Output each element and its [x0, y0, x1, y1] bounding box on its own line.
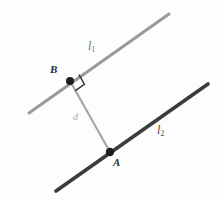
- line-l2: [56, 84, 208, 191]
- line-label-l2-subscript: 2: [160, 129, 164, 138]
- line-label-l1-subscript: 1: [91, 45, 95, 54]
- line-label-l2: l2: [157, 124, 164, 136]
- right-angle-group: [75, 75, 84, 91]
- right-angle-marker: [75, 75, 84, 91]
- line-label-l1: l1: [88, 40, 95, 52]
- segment-label-d: d: [73, 112, 78, 122]
- figure-svg: [0, 0, 224, 199]
- point-b-dot: [66, 77, 74, 85]
- geometry-figure: l1 l2 d B A: [0, 0, 224, 199]
- point-label-b: B: [50, 64, 57, 75]
- point-label-a: A: [113, 157, 120, 168]
- point-a-dot: [106, 148, 114, 156]
